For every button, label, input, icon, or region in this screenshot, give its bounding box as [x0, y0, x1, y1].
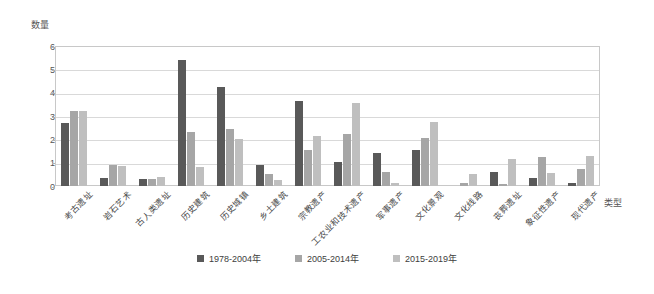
bar: [343, 134, 351, 187]
x-axis-tick-label: 宗教遗产: [295, 188, 329, 222]
bar: [109, 165, 117, 186]
bar: [217, 87, 225, 186]
legend-item[interactable]: 2015-2019年: [393, 252, 457, 265]
bar: [508, 159, 516, 186]
legend-item[interactable]: 2005-2014年: [295, 252, 359, 265]
bar: [256, 165, 264, 186]
x-axis-category-labels: 考古遗址岩石艺术古人类遗址历史建筑历史城镇乡土建筑宗教遗产工农业和技术遗产军事遗…: [55, 188, 600, 243]
bar: [412, 150, 420, 186]
bar: [529, 178, 537, 186]
x-axis-tick-label: 丧葬遗址: [489, 188, 523, 222]
x-axis-tick-label: 历史建筑: [178, 188, 212, 222]
bar: [235, 139, 243, 186]
bar: [538, 157, 546, 186]
x-axis-tick-label: 军事遗产: [372, 188, 406, 222]
x-axis-tick-label: 文化景观: [411, 188, 445, 222]
x-axis-tick-label: 象征性遗产: [522, 188, 562, 228]
bar: [61, 123, 69, 186]
bar: [577, 169, 585, 187]
bar: [391, 183, 399, 187]
bar-group: [405, 46, 444, 186]
x-axis-title: 类型: [604, 196, 622, 209]
legend-label: 2015-2019年: [405, 252, 457, 265]
legend-item[interactable]: 1978-2004年: [197, 252, 261, 265]
legend-label: 1978-2004年: [209, 252, 261, 265]
legend-label: 2005-2014年: [307, 252, 359, 265]
chart-legend: 1978-2004年2005-2014年2015-2019年: [0, 252, 654, 265]
bar: [187, 132, 195, 186]
bar: [469, 174, 477, 186]
legend-swatch-icon: [197, 255, 204, 262]
bar: [352, 103, 360, 186]
x-axis-tick-label: 文化线路: [450, 188, 484, 222]
y-axis: 0123456: [28, 46, 55, 187]
bar: [334, 162, 342, 187]
x-axis-tick-label: 岩石艺术: [100, 188, 134, 222]
bar-group: [522, 46, 561, 186]
y-axis-title: 数量: [31, 18, 49, 31]
bar: [382, 172, 390, 186]
x-axis-tick-label: 现代遗产: [567, 188, 601, 222]
bar: [373, 153, 381, 186]
bar: [139, 179, 147, 186]
bar-group: [328, 46, 367, 186]
bar-group: [94, 46, 133, 186]
bar: [568, 183, 576, 187]
bar: [313, 136, 321, 186]
bar: [421, 138, 429, 186]
bar: [460, 183, 468, 187]
bar: [70, 111, 78, 186]
bar-group: [366, 46, 405, 186]
bar-group: [561, 46, 600, 186]
x-axis-tick-label: 古人类遗址: [132, 188, 172, 228]
bar: [304, 150, 312, 186]
bar-group: [444, 46, 483, 186]
bar-group: [211, 46, 250, 186]
bar: [118, 166, 126, 186]
legend-swatch-icon: [393, 255, 400, 262]
bar: [547, 173, 555, 186]
bar-chart: 数量 0123456 考古遗址岩石艺术古人类遗址历史建筑历史城镇乡土建筑宗教遗产…: [0, 0, 654, 294]
bar: [178, 60, 186, 186]
bar-group: [172, 46, 211, 186]
bar-group: [483, 46, 522, 186]
bar: [226, 129, 234, 186]
legend-swatch-icon: [295, 255, 302, 262]
bars-layer: [55, 46, 600, 186]
bar-group: [289, 46, 328, 186]
bar-group: [250, 46, 289, 186]
bar: [295, 101, 303, 186]
x-axis-tick-label: 考古遗址: [61, 188, 95, 222]
bar-group: [133, 46, 172, 186]
bar: [148, 179, 156, 186]
bar: [499, 184, 507, 186]
x-axis-tick-label: 乡土建筑: [256, 188, 290, 222]
bar: [100, 178, 108, 186]
bar-group: [55, 46, 94, 186]
bar: [196, 167, 204, 186]
bar: [79, 111, 87, 186]
bar: [490, 172, 498, 186]
bar: [157, 177, 165, 186]
bar: [274, 180, 282, 186]
x-axis-tick-label: 历史城镇: [217, 188, 251, 222]
bar: [430, 122, 438, 186]
bar: [265, 174, 273, 186]
bar: [586, 156, 594, 186]
